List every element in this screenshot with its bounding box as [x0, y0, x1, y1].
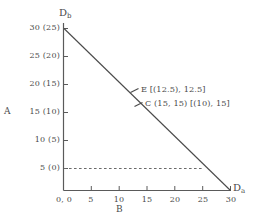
endpoint-da-sub: a — [241, 187, 245, 195]
y-tick-label-5: 5 (0) — [12, 164, 60, 172]
endpoint-label-db: Db — [59, 8, 72, 18]
x-axis-label: B — [116, 205, 123, 214]
point-marker-c — [135, 103, 143, 107]
annotation-point-c: C (15, 15) [(10), 15] — [145, 99, 230, 107]
x-tick-label-10: 10 — [106, 196, 132, 204]
y-axis-ticks — [64, 29, 69, 169]
y-tick-label-30: 30 (25) — [12, 24, 60, 32]
endpoint-db-base: D — [59, 7, 67, 18]
annotation-point-e: E [(12.5), 12.5] — [141, 85, 206, 93]
endpoint-da-base: D — [233, 182, 241, 193]
y-tick-label-20: 20 (15) — [12, 80, 60, 88]
endpoint-db-sub: b — [67, 12, 71, 20]
x-tick-label-5: 5 — [78, 196, 104, 204]
x-axis-ticks — [91, 186, 230, 191]
budget-line — [64, 29, 231, 191]
y-tick-label-25: 25 (20) — [12, 52, 60, 60]
y-tick-label-10: 10 (5) — [12, 136, 60, 144]
y-tick-label-15: 15 (10) — [12, 108, 60, 116]
point-marker-e — [131, 89, 139, 93]
y-axis-label: A — [4, 107, 11, 116]
x-tick-label-30: 30 — [218, 196, 244, 204]
x-tick-label-origin: 0, 0 — [51, 196, 77, 204]
chart-container: Db Da 30 (25) 25 (20) 20 (15) 15 (10) 10… — [0, 0, 259, 221]
x-tick-label-20: 20 — [162, 196, 188, 204]
x-tick-label-15: 15 — [134, 196, 160, 204]
x-tick-label-25: 25 — [190, 196, 216, 204]
endpoint-label-da: Da — [233, 183, 245, 193]
